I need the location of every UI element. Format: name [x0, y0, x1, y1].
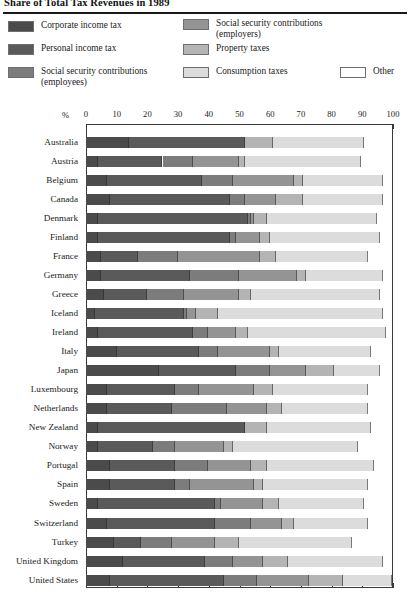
bar-segment-consumption	[276, 251, 368, 262]
bar-segment-ss_employees	[147, 289, 184, 300]
x-tick-label-70: 70	[297, 109, 306, 119]
bar-segment-consumption	[270, 232, 380, 243]
y-axis-category-labels: AustraliaAustriaBelgiumCanadaDenmarkFinl…	[0, 125, 82, 587]
bar-segment-consumption	[263, 479, 367, 490]
bar-segment-consumption	[343, 575, 392, 586]
bar-segment-consumption	[303, 175, 383, 186]
bar-segment-corporate	[86, 346, 117, 357]
bar-segment-property	[196, 308, 217, 319]
bar-segment-ss_employees	[172, 403, 227, 414]
y-label-belgium: Belgium	[46, 175, 78, 186]
bar-segment-personal	[110, 479, 174, 490]
bar-segment-ss_employees	[199, 346, 217, 357]
bar-segment-property	[294, 175, 303, 186]
bar-row	[86, 194, 392, 205]
bar-segment-consumption	[273, 137, 365, 148]
bar-segment-property	[297, 270, 306, 281]
bar-segment-property	[236, 327, 248, 338]
bar-segment-personal	[159, 365, 236, 376]
bar-segment-consumption	[218, 308, 383, 319]
y-label-japan: Japan	[57, 365, 78, 376]
bar-segment-other	[368, 518, 392, 529]
bar-segment-other	[380, 365, 392, 376]
bar-segment-corporate	[86, 194, 110, 205]
bar-segment-other	[374, 460, 392, 471]
bar-row	[86, 537, 392, 548]
legend-swatch-ss_employees	[8, 67, 34, 78]
y-label-canada: Canada	[50, 194, 78, 205]
bar-segment-ss_employers	[178, 251, 261, 262]
bar-segment-personal	[98, 156, 162, 167]
y-label-italy: Italy	[61, 346, 78, 357]
x-tick-label-10: 10	[112, 109, 121, 119]
bar-segment-consumption	[245, 156, 361, 167]
y-label-australia: Australia	[44, 137, 78, 148]
bar-segment-consumption	[267, 422, 371, 433]
legend-swatch-property	[183, 44, 209, 55]
page-title: Share of Total Tax Revenues in 1989	[4, 0, 170, 8]
bar-segment-other	[380, 232, 392, 243]
bar-segment-other	[383, 194, 392, 205]
bar-segment-consumption	[267, 460, 374, 471]
bar-segment-personal	[123, 556, 206, 567]
bar-segment-other	[386, 327, 392, 338]
legend-swatch-ss_employers	[183, 19, 209, 30]
bar-row	[86, 308, 392, 319]
bar-segment-corporate	[86, 575, 110, 586]
bar-segment-property	[276, 194, 304, 205]
bar-segment-corporate	[86, 156, 98, 167]
legend-label-personal: Personal income tax	[41, 43, 116, 54]
y-label-luxembourg: Luxembourg	[31, 384, 78, 395]
bar-segment-other	[383, 308, 392, 319]
bar-segment-personal	[114, 537, 142, 548]
legend-item-consumption: Consumption taxes	[183, 66, 333, 78]
bar-segment-ss_employers	[257, 575, 309, 586]
bar-segment-corporate	[86, 137, 129, 148]
bar-row	[86, 289, 392, 300]
bar-segment-property	[254, 479, 263, 490]
bar-segment-consumption	[279, 346, 371, 357]
legend-item-ss_employers: Social security contributions (employers…	[183, 18, 383, 39]
x-axis-tick-labels: 0102030405060708090100	[0, 109, 410, 121]
bar-segment-property	[260, 251, 275, 262]
bar-segment-ss_employers	[199, 384, 254, 395]
bar-segment-corporate	[86, 232, 98, 243]
bar-segment-property	[282, 518, 294, 529]
y-label-france: France	[53, 251, 78, 262]
legend-swatch-other	[340, 67, 366, 78]
bar-segment-corporate	[86, 422, 98, 433]
bar-segment-other	[380, 289, 392, 300]
bar-row	[86, 498, 392, 509]
bar-row	[86, 460, 392, 471]
bar-segment-consumption	[294, 518, 367, 529]
bar-segment-personal	[101, 251, 138, 262]
bar-segment-corporate	[86, 384, 107, 395]
bar-segment-property	[245, 422, 266, 433]
bar-segment-ss_employees	[175, 460, 209, 471]
bar-segment-ss_employers	[208, 327, 236, 338]
bar-row	[86, 403, 392, 414]
x-tick-100	[393, 583, 394, 588]
bar-segment-ss_employers	[172, 537, 215, 548]
bar-segment-corporate	[86, 308, 95, 319]
bar-segment-ss_employees	[175, 384, 199, 395]
bar-segment-personal	[98, 213, 248, 224]
bar-row	[86, 156, 392, 167]
bar-segment-ss_employees	[230, 194, 245, 205]
bar-row	[86, 422, 392, 433]
legend-swatch-consumption	[183, 67, 209, 78]
bar-segment-consumption	[334, 365, 380, 376]
y-label-ireland: Ireland	[52, 327, 78, 338]
y-label-greece: Greece	[52, 289, 78, 300]
bar-segment-other	[368, 384, 392, 395]
bar-segment-ss_employees	[215, 518, 252, 529]
bar-segment-corporate	[86, 403, 107, 414]
bar-segment-ss_employers	[193, 156, 239, 167]
bar-segment-ss_employees	[224, 575, 258, 586]
bar-segment-ss_employers	[251, 518, 282, 529]
y-label-portugal: Portugal	[47, 460, 78, 471]
bar-segment-ss_employers	[187, 308, 196, 319]
bar-segment-personal	[110, 194, 229, 205]
bar-segment-ss_employers	[218, 346, 270, 357]
legend-label-other: Other	[373, 66, 394, 77]
